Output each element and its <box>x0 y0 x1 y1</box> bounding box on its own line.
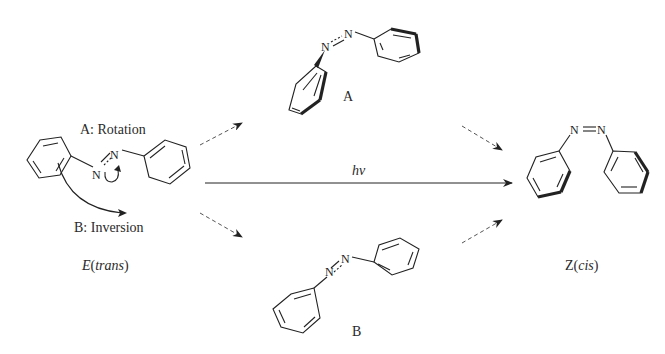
nitrogen-atom: N <box>110 148 119 162</box>
trans-prefix: E <box>82 258 91 273</box>
phenyl-ring-left <box>273 288 320 333</box>
phenyl-ring-left <box>527 151 570 197</box>
phenyl-ring-left <box>289 66 326 114</box>
rotation-arrow <box>105 170 119 182</box>
dashed-arrow-a-to-z <box>462 126 502 150</box>
cis-name: cis <box>578 258 594 273</box>
phenyl-ring-right <box>374 238 419 275</box>
trans-name: trans <box>95 258 124 273</box>
dashed-arrow-e-to-b <box>200 213 242 237</box>
dashed-arrow-e-to-a <box>200 123 242 145</box>
nitrogen-atom: N <box>570 123 579 137</box>
reaction-scheme: N N N N <box>0 0 665 354</box>
rotation-label: A: Rotation <box>80 122 146 138</box>
nitrogen-atom: N <box>92 168 101 182</box>
inversion-arrow <box>58 163 122 213</box>
intermediate-b-label: B <box>352 324 361 340</box>
nitrogen-atom: N <box>325 265 334 279</box>
cis-prefix: Z <box>565 258 574 273</box>
phenyl-ring-right <box>144 140 190 184</box>
nitrogen-atom: N <box>321 40 330 54</box>
intermediate-a-label: A <box>343 89 353 105</box>
phenyl-ring-left <box>27 137 71 178</box>
cis-isomer-label: Z(cis) <box>565 258 598 274</box>
phenyl-ring-right <box>374 29 419 62</box>
light-hv-label: hν <box>352 163 365 179</box>
nitrogen-atom: N <box>341 252 350 266</box>
trans-azobenzene-molecule <box>27 137 190 217</box>
inversion-label: B: Inversion <box>74 220 144 236</box>
dashed-arrow-b-to-z <box>462 220 502 243</box>
nitrogen-atom: N <box>597 123 606 137</box>
paren-close: ) <box>124 258 129 273</box>
phenyl-ring-right <box>604 151 648 193</box>
cis-azobenzene-molecule <box>527 127 648 197</box>
trans-isomer-label: E(trans) <box>82 258 129 274</box>
paren-close: ) <box>594 258 599 273</box>
rotation-intermediate-molecule <box>289 29 419 114</box>
nitrogen-atom: N <box>344 27 353 41</box>
